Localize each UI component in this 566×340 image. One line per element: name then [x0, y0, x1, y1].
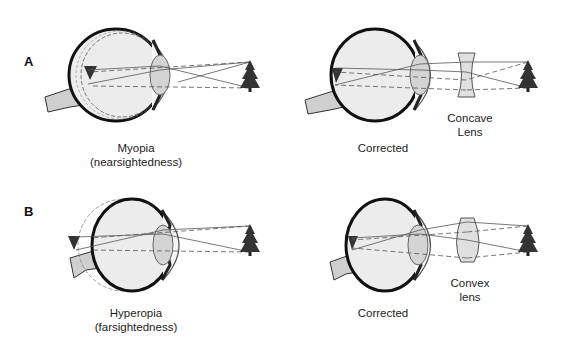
tree-object-icon: [240, 224, 260, 256]
condition-title: Myopia: [84, 141, 188, 155]
condition-subtitle: (nearsightedness): [84, 155, 188, 169]
lens-label-line1: Convex: [440, 276, 500, 290]
panel-label-b: B: [24, 204, 33, 219]
panel-label-a: A: [24, 54, 33, 69]
tree-object-icon: [518, 60, 538, 92]
hyperopia-corrected-eye: [330, 199, 431, 291]
myopia-corrected-eye: [305, 29, 431, 121]
lens-label-line2: lens: [440, 290, 500, 304]
myopia-label: Myopia (nearsightedness): [84, 141, 188, 169]
condition-subtitle: (farsightedness): [84, 320, 188, 334]
lens-label-line2: Lens: [440, 125, 500, 139]
tree-object-icon: [240, 60, 260, 92]
concave-lens: [458, 53, 475, 97]
convex-lens-label: Convex lens: [440, 276, 500, 304]
myopia-eye: [45, 29, 170, 121]
hyperopia-eye: [68, 199, 179, 291]
corrected-label-a: Corrected: [348, 141, 418, 155]
condition-title: Hyperopia: [84, 306, 188, 320]
lens-label-line1: Concave: [440, 111, 500, 125]
tree-object-icon: [518, 224, 538, 256]
concave-lens-label: Concave Lens: [440, 111, 500, 139]
corrected-label-b: Corrected: [348, 306, 418, 320]
hyperopia-label: Hyperopia (farsightedness): [84, 306, 188, 334]
